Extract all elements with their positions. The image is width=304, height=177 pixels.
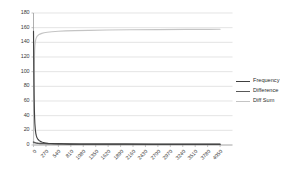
y-tick-label: 140 bbox=[21, 39, 30, 44]
legend-label: Difference bbox=[253, 88, 278, 94]
y-tick-label: 0 bbox=[27, 142, 30, 147]
chart-container: 020406080100120140160180 027054081010801… bbox=[0, 0, 304, 177]
y-tick-label: 20 bbox=[24, 127, 30, 132]
axis-lines bbox=[32, 13, 233, 147]
legend-swatch-icon bbox=[236, 91, 250, 92]
series-line bbox=[34, 31, 221, 144]
series-line bbox=[34, 29, 221, 145]
y-tick-label: 40 bbox=[24, 113, 30, 118]
y-tick-label: 60 bbox=[24, 98, 30, 103]
chart-legend: FrequencyDifferenceDiff Sum bbox=[236, 76, 302, 106]
y-tick-label: 80 bbox=[24, 83, 30, 88]
legend-swatch-icon bbox=[236, 101, 250, 102]
legend-item: Difference bbox=[236, 86, 302, 96]
y-tick-label: 120 bbox=[21, 54, 30, 59]
y-tick-label: 160 bbox=[21, 25, 30, 30]
legend-swatch-icon bbox=[236, 81, 250, 82]
legend-label: Diff Sum bbox=[253, 98, 274, 104]
legend-item: Frequency bbox=[236, 76, 302, 86]
legend-label: Frequency bbox=[253, 78, 279, 84]
legend-item: Diff Sum bbox=[236, 96, 302, 106]
data-series-group bbox=[34, 29, 221, 145]
y-tick-label: 180 bbox=[21, 10, 30, 15]
y-tick-label: 100 bbox=[21, 69, 30, 74]
